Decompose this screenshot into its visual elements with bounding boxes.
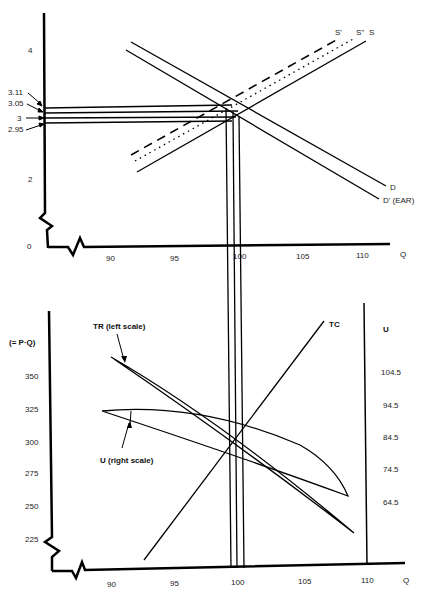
top-panel: 4 2 0 3.11 3.05 3 2.95 S' S'' S — [8, 13, 415, 263]
right-axis-title: U — [383, 325, 389, 334]
left-axis-title: (= P·Q) — [9, 338, 36, 347]
bottom-x-label-110: 110 — [361, 576, 374, 585]
tr-arrow-icon — [121, 356, 127, 363]
right-label-104-5: 104.5 — [381, 368, 402, 377]
bottom-x-label-105: 105 — [298, 577, 312, 586]
label-d-prime: D' (EAR) — [383, 196, 415, 205]
top-x-label-90: 90 — [106, 254, 115, 263]
demand-curve-d — [131, 42, 386, 186]
tc-curve — [144, 321, 324, 560]
quantity-drop-lines — [226, 108, 244, 568]
bottom-x-axis — [52, 562, 405, 578]
top-y-axis — [40, 13, 52, 248]
label-tr: TR (left scale) — [93, 322, 146, 331]
price-arrows — [26, 93, 44, 130]
tr-curve — [111, 357, 354, 533]
supply-curve-s-dprime — [135, 38, 355, 161]
label-d: D — [390, 183, 396, 192]
left-label-250: 250 — [25, 502, 39, 511]
right-label-94-5: 94.5 — [383, 401, 399, 410]
bottom-x-label-90: 90 — [107, 580, 116, 589]
right-u-axis — [364, 303, 367, 565]
top-x-label-q: Q — [400, 250, 406, 259]
left-label-300: 300 — [25, 438, 39, 447]
top-x-axis — [48, 238, 390, 255]
top-x-label-105: 105 — [296, 252, 310, 261]
price-label-2-95: 2.95 — [8, 125, 24, 134]
label-u: U (right scale) — [100, 456, 154, 465]
price-label-3-05: 3.05 — [8, 99, 24, 108]
bottom-x-label-100: 100 — [231, 578, 245, 587]
left-label-350: 350 — [25, 372, 39, 381]
bottom-x-label-q: Q — [403, 576, 409, 585]
top-x-label-95: 95 — [170, 254, 179, 263]
label-s-prime: S' — [335, 28, 342, 37]
price-label-3-11: 3.11 — [8, 88, 24, 97]
left-label-325: 325 — [25, 405, 39, 414]
chart-canvas: 4 2 0 3.11 3.05 3 2.95 S' S'' S — [0, 0, 424, 595]
u-curve — [102, 409, 348, 496]
top-y-label-4: 4 — [28, 46, 33, 55]
demand-curve-d-prime — [126, 50, 379, 199]
left-label-275: 275 — [25, 469, 39, 478]
left-label-225: 225 — [25, 535, 39, 544]
price-lines — [45, 105, 238, 123]
bottom-y-axis — [45, 311, 59, 571]
top-x-label-110: 110 — [356, 251, 369, 260]
label-s: S — [369, 28, 374, 37]
right-label-84-5: 84.5 — [383, 433, 399, 442]
bottom-x-label-95: 95 — [170, 579, 179, 588]
top-y-label-2: 2 — [28, 175, 33, 184]
right-label-74-5: 74.5 — [383, 465, 399, 474]
price-label-3: 3 — [17, 114, 22, 123]
label-s-dprime: S'' — [356, 28, 365, 37]
label-tc: TC — [329, 320, 340, 329]
bottom-panel: (= P·Q) 350 325 300 275 250 225 U 104.5 … — [9, 303, 409, 589]
u-arrow-icon — [127, 421, 132, 428]
top-y-label-0: 0 — [27, 242, 32, 251]
supply-curve-s-prime — [131, 39, 338, 155]
right-label-64-5: 64.5 — [383, 498, 399, 507]
